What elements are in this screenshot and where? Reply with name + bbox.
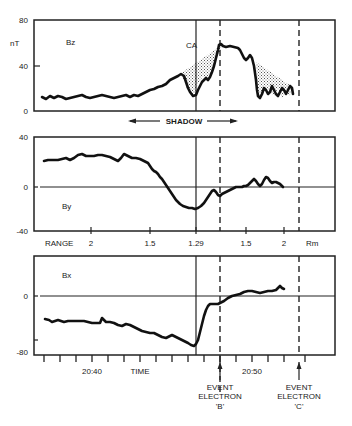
by-trace <box>44 154 283 209</box>
event-c-marker: EVENT ELECTRON 'C' <box>277 362 321 411</box>
shadow-arrow-left-icon <box>128 119 136 124</box>
bz-shaded-region-ca <box>180 45 222 95</box>
by-ytick-40: 40 <box>19 133 28 142</box>
range-tick-label: 1.5 <box>144 239 156 248</box>
bz-panel-label: Bz <box>66 38 75 47</box>
range-tick-label: 1.29 <box>188 239 204 248</box>
bz-ytick-0: 0 <box>24 107 29 116</box>
time-tick-label-2050: 20:50 <box>242 367 263 376</box>
bx-ytick-0: 0 <box>24 292 29 301</box>
magnetometer-figure: 80 40 0 nT Bz CA SHADOW 40 0 -40 By <box>0 0 352 426</box>
event-b-arrow-icon <box>218 362 223 369</box>
range-tick-label: 1.5 <box>240 239 252 248</box>
shadow-arrow-right-icon <box>230 119 238 124</box>
range-axis-label: RANGE <box>45 239 73 248</box>
bx-ytick-neg80: -80 <box>16 348 28 357</box>
event-b-label-line1: EVENT <box>207 383 234 392</box>
event-c-arrow-icon <box>297 362 302 369</box>
event-b-marker: EVENT ELECTRON 'B' <box>198 362 242 411</box>
event-b-label-line2: ELECTRON <box>198 392 242 401</box>
bz-panel: 80 40 0 nT Bz CA <box>10 16 335 116</box>
bx-panel: 0 -80 Bx 20:40 TIME 20:50 <box>16 256 335 392</box>
event-c-label-line1: EVENT <box>286 383 313 392</box>
bx-panel-label: Bx <box>62 271 71 280</box>
time-tick-label-2040: 20:40 <box>82 367 103 376</box>
time-axis-label: TIME <box>130 367 149 376</box>
event-b-label-line3: 'B' <box>216 402 225 411</box>
by-panel: 40 0 -40 By RANGE 2 1.5 1.29 1.5 2 Rm <box>16 133 335 248</box>
event-c-label-line2: ELECTRON <box>277 392 321 401</box>
bz-unit-label: nT <box>10 39 19 48</box>
shadow-indicator: SHADOW <box>128 117 238 126</box>
time-ticks <box>44 355 305 362</box>
by-frame <box>34 137 335 231</box>
by-ytick-0: 0 <box>24 183 29 192</box>
bz-frame <box>34 20 335 111</box>
range-unit-label: Rm <box>306 239 319 248</box>
shadow-label: SHADOW <box>166 117 203 126</box>
range-tick-label: 2 <box>89 239 94 248</box>
by-panel-label: By <box>62 202 71 211</box>
bx-trace <box>45 286 284 346</box>
bz-trace <box>42 44 293 99</box>
by-ytick-neg40: -40 <box>16 227 28 236</box>
bz-ytick-40: 40 <box>19 62 28 71</box>
range-tick-label: 2 <box>282 239 287 248</box>
event-c-label-line3: 'C' <box>295 402 304 411</box>
bz-ytick-80: 80 <box>19 16 28 25</box>
